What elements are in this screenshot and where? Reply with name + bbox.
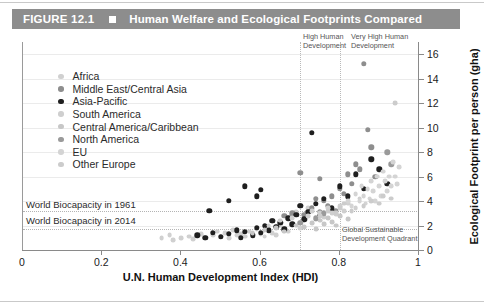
- legend-dot-icon: [58, 111, 64, 117]
- scatter-point: [393, 101, 398, 106]
- scatter-point: [326, 208, 331, 213]
- y-axis-tick-label: 0: [427, 244, 433, 256]
- legend-item[interactable]: EU: [58, 146, 199, 159]
- scatter-point: [345, 217, 350, 222]
- y-axis-label: Ecological Footprint per person (gha): [465, 42, 483, 251]
- scatter-point: [369, 199, 374, 204]
- scatter-point: [310, 208, 315, 213]
- figure-page: FIGURE 12.1 Human Welfare and Ecological…: [0, 0, 484, 303]
- scatter-point: [381, 169, 386, 174]
- legend-dot-icon: [58, 124, 64, 130]
- scatter-point: [391, 159, 396, 164]
- scatter-point: [397, 164, 402, 169]
- figure-banner: FIGURE 12.1 Human Welfare and Ecological…: [12, 9, 460, 29]
- scatter-point: [377, 184, 382, 189]
- legend-item[interactable]: South America: [58, 108, 199, 121]
- x-axis-tick: [101, 250, 102, 255]
- x-axis-tick: [260, 250, 261, 255]
- scatter-point: [359, 184, 364, 189]
- legend-item[interactable]: North America: [58, 133, 199, 146]
- figure-number: FIGURE 12.1: [23, 13, 94, 25]
- legend-item[interactable]: Africa: [58, 70, 199, 83]
- scatter-point: [385, 149, 390, 154]
- y-axis-tick: [418, 177, 424, 178]
- legend-dot-icon: [58, 149, 64, 155]
- y-axis-tick-label: 10: [427, 122, 439, 134]
- x-axis-tick-label: 0: [19, 256, 25, 268]
- scatter-point: [369, 179, 374, 184]
- legend-item-label: Middle East/Central Asia: [73, 83, 187, 95]
- scatter-point: [206, 208, 211, 213]
- top-divider: [0, 2, 484, 3]
- scatter-point: [371, 189, 376, 194]
- scatter-point: [357, 167, 362, 172]
- reference-line-horizontal: [23, 211, 419, 212]
- annotation-biocapacity-1961: World Biocapacity in 1961: [26, 199, 136, 210]
- legend-item[interactable]: Other Europe: [58, 158, 199, 171]
- legend-dot-icon: [58, 86, 64, 92]
- scatter-point: [381, 194, 386, 199]
- x-axis-tick-label: 0.6: [252, 256, 267, 268]
- legend-item-label: Asia-Pacific: [73, 95, 128, 107]
- scatter-point: [389, 196, 394, 201]
- scatter-point: [254, 193, 259, 198]
- scatter-point: [278, 218, 283, 223]
- scatter-point: [282, 229, 287, 234]
- scatter-point: [361, 204, 366, 209]
- legend-dot-icon: [58, 162, 64, 168]
- legend: AfricaMiddle East/Central AsiaAsia-Pacif…: [58, 70, 199, 171]
- scatter-point: [297, 170, 302, 175]
- legend-item[interactable]: Central America/Caribbean: [58, 120, 199, 133]
- scatter-point: [333, 223, 338, 228]
- y-axis-tick-label: 16: [427, 48, 439, 60]
- x-axis-tick: [339, 250, 340, 255]
- y-axis-tick: [418, 103, 424, 104]
- legend-item-label: EU: [73, 146, 88, 158]
- scatter-point: [266, 223, 271, 228]
- scatter-point: [395, 182, 400, 187]
- scatter-point: [310, 221, 315, 226]
- legend-item[interactable]: Asia-Pacific: [58, 95, 199, 108]
- annotation-global-sustainable-quadrant: Global Sustainable Development Quadrant: [342, 226, 417, 243]
- scatter-point: [317, 176, 322, 181]
- y-axis-tick: [418, 54, 424, 55]
- x-axis-tick: [418, 250, 419, 255]
- scatter-point: [195, 233, 200, 238]
- annotation-very-high-human-development: Very High Human Development: [351, 33, 408, 50]
- x-axis-tick-label: 1: [415, 256, 421, 268]
- scatter-point: [171, 238, 176, 243]
- annotation-biocapacity-2014: World Biocapacity in 2014: [26, 215, 136, 226]
- y-axis-tick-label: 8: [427, 146, 433, 158]
- scatter-point: [226, 198, 231, 203]
- gridline-horizontal: [23, 177, 419, 178]
- scatter-point: [313, 201, 318, 206]
- reference-line-vertical: [340, 42, 341, 250]
- y-axis-tick: [418, 152, 424, 153]
- scatter-point: [349, 208, 354, 213]
- scatter-point: [329, 193, 334, 198]
- x-axis-tick-label: 0.8: [331, 256, 346, 268]
- legend-dot-icon: [58, 99, 64, 105]
- bottom-divider: [0, 301, 484, 302]
- y-axis-tick: [418, 79, 424, 80]
- scatter-point: [393, 174, 398, 179]
- y-axis-tick-label: 4: [427, 195, 433, 207]
- scatter-point: [159, 235, 164, 240]
- scatter-point: [322, 222, 327, 227]
- square-marker-icon: [109, 16, 116, 23]
- legend-item[interactable]: Middle East/Central Asia: [58, 83, 199, 96]
- scatter-point: [274, 233, 279, 238]
- scatter-point: [297, 203, 302, 208]
- x-axis-tick-label: 0.2: [94, 256, 109, 268]
- scatter-point: [361, 61, 366, 66]
- x-axis-line: [22, 250, 419, 251]
- scatter-point: [179, 235, 184, 240]
- scatter-point: [365, 127, 370, 132]
- y-axis-line: [418, 42, 419, 251]
- scatter-point: [258, 187, 263, 192]
- scatter-point: [302, 224, 307, 229]
- legend-item-label: Africa: [73, 70, 100, 82]
- scatter-point: [250, 230, 255, 235]
- scatter-point: [365, 186, 370, 191]
- annotation-high-human-development: High Human Development: [303, 33, 346, 50]
